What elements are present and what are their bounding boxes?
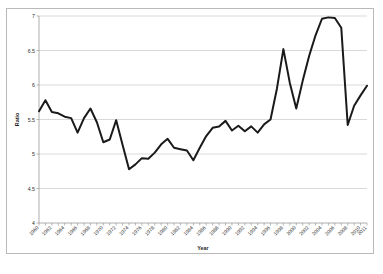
y-axis-tick-labels: 76.565.554.54 (28, 13, 39, 226)
x-tick-label: 2004 (311, 224, 323, 236)
x-tick-label: 2008 (336, 224, 348, 236)
data-series-line (39, 17, 367, 169)
x-tick-label: 1964 (53, 224, 65, 236)
x-tick-label: 1994 (246, 224, 258, 236)
x-tick-label: 1984 (182, 224, 194, 236)
line-chart: 76.565.554.54 19601962196419661968197019… (7, 9, 375, 255)
x-tick-label: 1986 (195, 224, 207, 236)
x-tick-label: 1974 (118, 224, 130, 236)
x-tick-label: 2006 (323, 224, 335, 236)
x-axis-tick-labels: 1960196219641966196819701972197419761978… (28, 224, 368, 236)
y-tick-label: 5.5 (28, 117, 35, 123)
y-tick-label: 6.5 (28, 48, 35, 54)
x-tick-label: 1976 (130, 224, 142, 236)
gridlines-group (39, 16, 367, 223)
x-tick-label: 1960 (28, 224, 40, 236)
figure-caption (14, 258, 369, 272)
x-tick-label: 1992 (233, 224, 245, 236)
x-tick-label: 1982 (169, 224, 181, 236)
y-tick-label: 5 (32, 151, 35, 157)
x-tick-label: 1990 (221, 224, 233, 236)
y-tick-label: 7 (32, 13, 35, 19)
x-tick-label: 1968 (79, 224, 91, 236)
x-tick-label: 2002 (298, 224, 310, 236)
x-tick-label: 1978 (143, 224, 155, 236)
x-tick-label: 1980 (156, 224, 168, 236)
figure-container: 76.565.554.54 19601962196419661968197019… (0, 0, 383, 274)
x-axis-title: Year (197, 245, 209, 251)
x-tick-label: 1970 (92, 224, 104, 236)
x-tick-label: 1972 (105, 224, 117, 236)
x-tick-label: 1996 (259, 224, 271, 236)
series-ratio-line (39, 17, 367, 169)
chart-frame: 76.565.554.54 19601962196419661968197019… (6, 8, 374, 254)
x-tick-label: 1998 (272, 224, 284, 236)
x-tick-label: 1966 (66, 224, 78, 236)
x-tick-label: 1988 (208, 224, 220, 236)
y-tick-label: 4.5 (28, 186, 35, 192)
x-tick-label: 1962 (40, 224, 52, 236)
y-axis-title: Ratio (14, 112, 20, 126)
y-tick-label: 6 (32, 82, 35, 88)
x-tick-label: 2000 (285, 224, 297, 236)
